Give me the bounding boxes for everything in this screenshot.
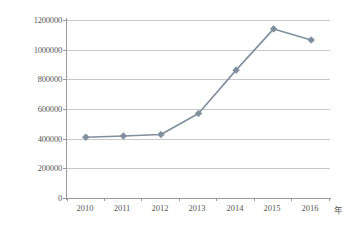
series-line (86, 29, 311, 137)
data-point-2010 (82, 134, 89, 141)
data-point-2016 (308, 37, 315, 44)
series-markers (82, 26, 314, 141)
data-point-2012 (158, 131, 165, 138)
series-layer (0, 0, 351, 228)
data-point-2011 (120, 133, 127, 140)
line-chart: 1200000 1000000 800000 600000 400000 200… (0, 0, 351, 228)
